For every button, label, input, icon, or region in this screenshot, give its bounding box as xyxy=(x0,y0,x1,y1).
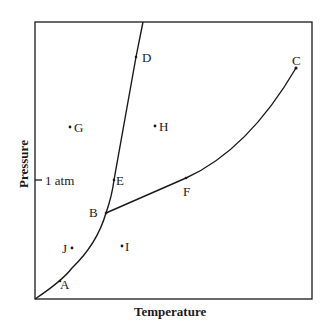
sublimation-curve xyxy=(35,213,106,299)
point-d-dot xyxy=(135,56,138,59)
point-g-label: G xyxy=(74,120,83,135)
point-e-label: E xyxy=(116,173,124,188)
point-b-dot xyxy=(105,212,108,215)
one-atm-label: 1 atm xyxy=(45,173,74,188)
point-a-label: A xyxy=(60,277,70,292)
point-d-label: D xyxy=(142,50,151,65)
point-h-label: H xyxy=(159,119,168,134)
point-j-label: J xyxy=(62,241,67,256)
phase-diagram: 1 atm A B C D E F G H I J Temperature Pr… xyxy=(0,0,325,323)
point-f-dot xyxy=(185,177,188,180)
point-i-label: I xyxy=(125,239,129,254)
point-h-dot xyxy=(154,125,157,128)
melting-curve xyxy=(106,22,143,213)
point-e-dot xyxy=(113,179,116,182)
plot-frame xyxy=(35,22,312,299)
point-g-dot xyxy=(69,126,72,129)
point-f-label: F xyxy=(183,184,190,199)
point-c-label: C xyxy=(292,53,301,68)
vaporization-curve xyxy=(106,68,296,213)
point-j-dot xyxy=(71,247,74,250)
y-axis-label: Pressure xyxy=(16,140,31,188)
x-axis-label: Temperature xyxy=(134,304,206,319)
point-b-label: B xyxy=(89,205,98,220)
point-i-dot xyxy=(121,245,124,248)
